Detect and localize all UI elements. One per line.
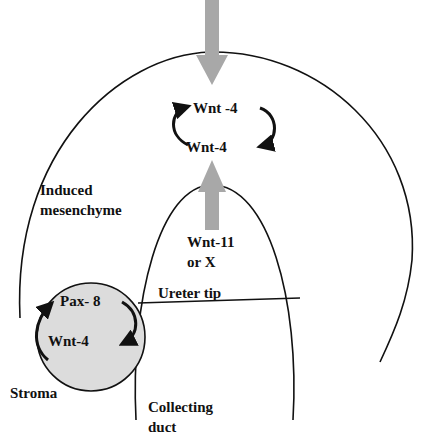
top-gray-arrow bbox=[196, 0, 228, 85]
label-mesenchyme: mesenchyme bbox=[40, 202, 122, 218]
label-wnt11: Wnt-11 bbox=[187, 234, 235, 250]
label-pax8: Pax- 8 bbox=[60, 293, 100, 309]
label-duct: duct bbox=[148, 419, 176, 435]
label-or-x: or X bbox=[187, 254, 216, 270]
label-ureter-tip: Ureter tip bbox=[158, 285, 221, 301]
label-induced: Induced bbox=[40, 182, 93, 198]
kidney-induction-diagram: Wnt -4 Wnt-4 Induced mesenchyme Wnt-11 o… bbox=[0, 0, 422, 444]
label-stroma: Stroma bbox=[10, 385, 58, 401]
label-top-wnt4-b: Wnt-4 bbox=[186, 139, 227, 155]
autoregulation-arrow-right-icon bbox=[260, 108, 275, 146]
ureter-gray-arrow bbox=[198, 160, 226, 230]
label-circle-wnt4: Wnt-4 bbox=[48, 333, 89, 349]
label-top-wnt4-a: Wnt -4 bbox=[193, 100, 238, 116]
label-collecting: Collecting bbox=[148, 399, 213, 415]
